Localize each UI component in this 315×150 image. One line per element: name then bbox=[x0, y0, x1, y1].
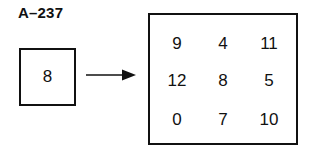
grid-cell: 11 bbox=[249, 34, 289, 54]
grid-cell: 4 bbox=[203, 34, 243, 54]
grid-cell: 10 bbox=[249, 110, 289, 130]
grid-cell: 5 bbox=[249, 71, 289, 91]
grid-cell: 7 bbox=[203, 110, 243, 130]
figure-label: A–237 bbox=[18, 4, 63, 21]
grid-cell: 12 bbox=[157, 71, 197, 91]
grid-cell: 9 bbox=[157, 34, 197, 54]
grid-cell: 0 bbox=[157, 110, 197, 130]
number-grid: 9 4 11 12 8 5 0 7 10 bbox=[148, 13, 298, 145]
input-value: 8 bbox=[43, 67, 52, 87]
right-arrow-icon bbox=[86, 68, 136, 82]
input-box: 8 bbox=[19, 48, 76, 106]
grid-cell: 8 bbox=[203, 71, 243, 91]
